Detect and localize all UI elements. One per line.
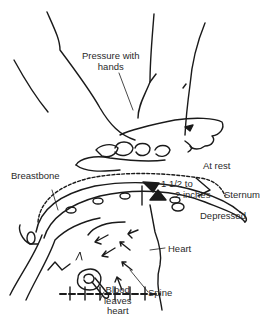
label-at-rest: At rest: [203, 161, 230, 172]
label-sternum: Sternum: [224, 190, 260, 201]
body-interior-drawing: [10, 205, 162, 310]
label-blood-line3: heart: [104, 306, 131, 317]
label-breastbone: Breastbone: [11, 171, 60, 182]
label-spine: Spine: [148, 288, 172, 299]
label-depth: 1 1/2 to 2 inches: [161, 179, 210, 200]
arms-drawing: [14, 12, 205, 140]
hands-drawing: [76, 118, 223, 171]
label-depth-line1: 1 1/2 to: [161, 179, 210, 190]
label-depth-line2: 2 inches: [175, 190, 210, 201]
label-blood-line1: Blood: [104, 285, 131, 296]
label-pressure-line2: hands: [82, 62, 140, 73]
chest-drawing: [36, 174, 246, 239]
label-blood-leaves-heart: Blood leaves heart: [104, 285, 131, 317]
label-pressure-with-hands: Pressure with hands: [82, 51, 140, 72]
label-depressed: Depressed: [200, 211, 246, 222]
label-pressure-line1: Pressure with: [82, 51, 140, 62]
label-heart: Heart: [168, 244, 191, 255]
cpr-diagram: Pressure with hands At rest Breastbone 1…: [0, 0, 266, 322]
